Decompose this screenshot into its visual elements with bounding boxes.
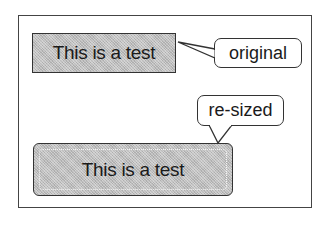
original-text-box: This is a test <box>32 33 176 73</box>
resized-box-label: This is a test <box>82 159 184 181</box>
original-callout-label: original <box>229 43 287 64</box>
resized-callout-label: re-sized <box>208 100 272 121</box>
resized-callout: re-sized <box>197 95 284 126</box>
original-callout: original <box>214 38 302 68</box>
original-box-label: This is a test <box>53 42 155 64</box>
resized-text-box: This is a test <box>33 143 233 196</box>
